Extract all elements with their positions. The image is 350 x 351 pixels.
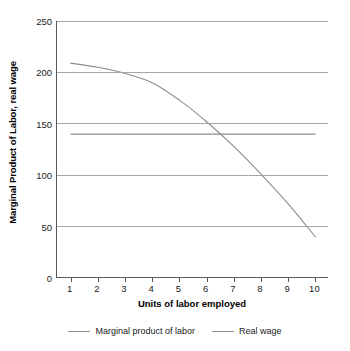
x-axis-tick-mark xyxy=(315,278,316,282)
y-axis-tick-label: 0 xyxy=(47,273,52,284)
y-axis-tick-label: 150 xyxy=(36,118,52,129)
gridline xyxy=(57,123,328,124)
x-axis-tick-labels: 12345678910 xyxy=(56,283,328,297)
x-axis-tick-mark xyxy=(125,278,126,282)
x-axis-tick-mark xyxy=(234,278,235,282)
x-axis-tick-label: 2 xyxy=(94,283,99,294)
x-axis-tick-label: 4 xyxy=(149,283,154,294)
x-axis-tick-mark xyxy=(152,278,153,282)
legend-item-marginal-product-of-labor: Marginal product of labor xyxy=(68,326,195,336)
y-axis-tick-label: 50 xyxy=(41,221,52,232)
chart-figure: Marginal Product of Labor, real wage 250… xyxy=(0,0,350,351)
y-axis-title-text: Marginal Product of Labor, real wage xyxy=(7,61,18,224)
x-axis-tick-mark xyxy=(207,278,208,282)
y-axis-tick-label: 250 xyxy=(36,16,52,27)
y-axis-tick-label: 100 xyxy=(36,170,52,181)
gridline xyxy=(57,175,328,176)
x-axis-tick-label: 6 xyxy=(203,283,208,294)
legend-label: Marginal product of labor xyxy=(95,326,195,336)
series-lines xyxy=(57,21,329,278)
x-axis-tick-label: 10 xyxy=(309,283,320,294)
x-axis-title: Units of labor employed xyxy=(56,298,328,309)
y-axis-tick-labels: 250200150100500 xyxy=(22,0,52,351)
x-axis-tick-mark xyxy=(71,278,72,282)
x-axis-tick-mark xyxy=(261,278,262,282)
x-axis-tick-mark xyxy=(179,278,180,282)
gridline xyxy=(57,226,328,227)
marginal-product-of-labor-line xyxy=(71,63,316,237)
x-axis-tick-label: 1 xyxy=(67,283,72,294)
x-axis-tick-label: 5 xyxy=(176,283,181,294)
y-axis-title: Marginal Product of Labor, real wage xyxy=(0,0,24,285)
x-axis-tick-label: 3 xyxy=(121,283,126,294)
gridline xyxy=(57,21,328,22)
x-axis-tick-label: 9 xyxy=(285,283,290,294)
gridline xyxy=(57,72,328,73)
legend-line-swatch-icon xyxy=(212,331,234,332)
chart-legend: Marginal product of labor Real wage xyxy=(0,326,350,336)
y-axis-tick-label: 200 xyxy=(36,67,52,78)
x-axis-tick-label: 7 xyxy=(230,283,235,294)
legend-line-swatch-icon xyxy=(68,331,90,332)
x-axis-tick-label: 8 xyxy=(257,283,262,294)
legend-label: Real wage xyxy=(239,326,282,336)
x-axis-tick-mark xyxy=(288,278,289,282)
plot-area xyxy=(56,21,328,278)
legend-item-real-wage: Real wage xyxy=(212,326,282,336)
x-axis-tick-mark xyxy=(98,278,99,282)
